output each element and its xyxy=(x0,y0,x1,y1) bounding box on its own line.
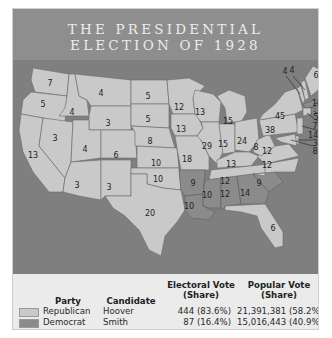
header-candidate: Candidate xyxy=(103,296,159,306)
ev-va: 12 xyxy=(262,147,272,156)
row-2-electoral: 87 (16.4%) xyxy=(163,317,231,328)
ev-tn: 12 xyxy=(220,177,230,186)
ev-mt: 4 xyxy=(98,89,103,98)
ev-vt: 4 xyxy=(282,67,287,76)
ev-md: 8 xyxy=(312,147,317,156)
ev-ut: 4 xyxy=(82,145,87,154)
state-ne xyxy=(131,126,175,148)
ev-ia: 13 xyxy=(176,125,186,134)
ev-sc: 9 xyxy=(256,179,261,188)
ev-wv: 8 xyxy=(253,143,258,152)
ev-tx: 20 xyxy=(145,209,155,218)
ev-fl: 6 xyxy=(270,224,275,233)
us-electoral-map: 7 5 13 4 3 4 3 4 6 3 3 5 5 8 10 10 20 12… xyxy=(13,60,319,274)
title-line-1: THE PRESIDENTIAL xyxy=(13,21,318,37)
ev-al: 12 xyxy=(220,190,230,199)
ev-wa: 7 xyxy=(47,79,52,88)
ev-ne: 8 xyxy=(147,137,152,146)
row-2-party: Democrat xyxy=(43,317,85,328)
ev-mn: 12 xyxy=(174,103,184,112)
ev-id: 4 xyxy=(69,108,74,117)
ev-ms: 10 xyxy=(202,191,212,200)
ev-in: 15 xyxy=(218,140,228,149)
ev-nd: 5 xyxy=(145,92,150,101)
title-line-2: ELECTION OF 1928 xyxy=(13,37,318,53)
ev-az: 3 xyxy=(74,181,79,190)
election-map-figure: THE PRESIDENTIAL ELECTION OF 1928 xyxy=(12,8,319,330)
row-1-candidate: Hoover xyxy=(103,306,134,317)
header-electoral-vote: Electoral Vote (Share) xyxy=(163,280,239,300)
ev-me: 6 xyxy=(313,71,318,80)
swatch-republican xyxy=(19,308,39,317)
ev-il: 29 xyxy=(202,142,212,151)
ev-wi: 13 xyxy=(195,108,205,117)
ev-la: 10 xyxy=(184,202,194,211)
ev-ri: 5 xyxy=(313,113,318,122)
ev-oh: 24 xyxy=(237,137,247,146)
ev-or: 5 xyxy=(40,100,45,109)
ev-co: 6 xyxy=(113,151,118,160)
state-co xyxy=(101,130,137,158)
ev-mo: 18 xyxy=(182,155,192,164)
row-2-popular: 15,016,443 (40.9%) xyxy=(237,317,317,328)
row-2-candidate: Smith xyxy=(103,317,128,328)
header-popular-vote: Popular Vote (Share) xyxy=(239,280,319,300)
map-title: THE PRESIDENTIAL ELECTION OF 1928 xyxy=(13,9,318,61)
ev-ma: 18 xyxy=(312,99,319,108)
state-wi xyxy=(193,90,221,122)
ev-mi: 15 xyxy=(223,117,233,126)
ev-ok: 10 xyxy=(153,175,163,184)
ev-ky: 13 xyxy=(226,160,236,169)
ev-nh: 4 xyxy=(289,66,294,75)
ev-ar: 9 xyxy=(190,179,195,188)
row-1-electoral: 444 (83.6%) xyxy=(163,306,231,317)
ev-ct: 7 xyxy=(312,122,317,131)
row-1-party: Republican xyxy=(43,306,90,317)
ev-ca: 13 xyxy=(28,151,38,160)
ev-pa: 38 xyxy=(265,126,275,135)
ev-wy: 3 xyxy=(105,119,110,128)
ev-nm: 3 xyxy=(106,183,111,192)
state-nm xyxy=(101,160,131,200)
row-1-popular: 21,391,381 (58.2%) xyxy=(237,306,317,317)
state-ct xyxy=(303,108,311,116)
ev-ny: 45 xyxy=(275,112,285,121)
results-legend: Party Candidate Electoral Vote (Share) P… xyxy=(13,274,318,330)
ev-sd: 5 xyxy=(145,115,150,124)
ev-nv: 3 xyxy=(52,134,57,143)
ev-ga: 14 xyxy=(240,189,250,198)
ev-nc: 12 xyxy=(262,161,272,170)
header-party: Party xyxy=(43,296,93,306)
ev-ks: 10 xyxy=(151,159,161,168)
swatch-democrat xyxy=(19,319,39,328)
